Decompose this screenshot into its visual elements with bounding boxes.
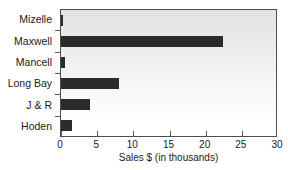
y-axis-category-label: J & R bbox=[0, 94, 57, 115]
y-axis-category-labels: MizelleMaxwellMancellLong BayJ & RHoden bbox=[0, 9, 57, 137]
bar-row bbox=[61, 31, 276, 52]
x-axis-tick-label: 25 bbox=[235, 139, 246, 151]
x-axis-title: Sales $ (in thousands) bbox=[60, 152, 277, 164]
bar bbox=[61, 57, 65, 68]
x-axis-tick-mark bbox=[206, 131, 207, 136]
x-axis-tick-mark bbox=[97, 131, 98, 136]
y-axis-category-label: Maxwell bbox=[0, 30, 57, 51]
y-axis-category-label: Long Bay bbox=[0, 73, 57, 94]
x-axis-tick-label: 30 bbox=[271, 139, 282, 151]
y-axis-category-label: Hoden bbox=[0, 116, 57, 137]
x-axis-tick-label: 10 bbox=[127, 139, 138, 151]
bar-row bbox=[61, 115, 276, 136]
x-axis-tick-label: 15 bbox=[163, 139, 174, 151]
bar bbox=[61, 36, 223, 47]
bar-row bbox=[61, 94, 276, 115]
bar-row bbox=[61, 10, 276, 31]
x-axis-tick-label: 20 bbox=[199, 139, 210, 151]
x-axis-tick-mark bbox=[61, 131, 62, 136]
plot-area bbox=[60, 9, 277, 137]
x-axis-tick-mark bbox=[276, 131, 277, 136]
bar bbox=[61, 120, 72, 131]
bar-chart-figure: MizelleMaxwellMancellLong BayJ & RHoden … bbox=[0, 0, 288, 170]
bar-series bbox=[61, 10, 276, 136]
bar-row bbox=[61, 73, 276, 94]
x-axis-tick-label: 5 bbox=[93, 139, 99, 151]
x-axis-tick-label: 0 bbox=[57, 139, 63, 151]
y-axis-category-label: Mizelle bbox=[0, 9, 57, 30]
bar bbox=[61, 78, 119, 89]
bar bbox=[61, 99, 90, 110]
y-axis-category-label: Mancell bbox=[0, 52, 57, 73]
bar-row bbox=[61, 52, 276, 73]
x-axis-tick-mark bbox=[242, 131, 243, 136]
x-axis-tick-mark bbox=[170, 131, 171, 136]
x-axis-tick-mark bbox=[133, 131, 134, 136]
x-axis-tick-labels: 051015202530 bbox=[60, 139, 277, 151]
bar bbox=[61, 15, 63, 26]
